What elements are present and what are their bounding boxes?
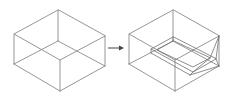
right-box-with-tray — [129, 10, 219, 91]
transform-arrow — [108, 46, 124, 51]
left-box-wireframe — [14, 10, 105, 91]
diagram-canvas — [0, 0, 231, 97]
arrowhead-icon — [119, 46, 124, 51]
